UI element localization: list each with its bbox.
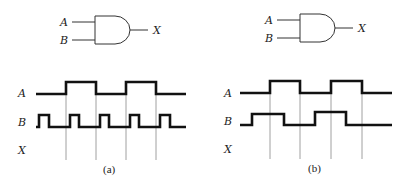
- gate-input-b-label: B: [59, 34, 68, 47]
- waveform-b-label: B: [17, 116, 26, 129]
- waveform-a-label: A: [17, 87, 26, 100]
- and-gate-timing-diagram: A B X A B X (a) A B X: [0, 0, 410, 180]
- waveform-b-signal-b: [240, 112, 392, 125]
- waveform-a-signal-a: [36, 82, 186, 94]
- gate-output-x-label: X: [152, 24, 162, 37]
- waveform-a-signal-b: [36, 115, 186, 127]
- waveform-b-label: B: [223, 115, 232, 128]
- and-gate-symbol-b: [300, 14, 335, 42]
- caption-b: (b): [308, 162, 321, 175]
- waveform-b-signal-a: [240, 81, 392, 93]
- gate-input-a-label: A: [59, 16, 68, 29]
- gate-output-x-label: X: [357, 22, 367, 35]
- and-gate-b: A B X: [264, 14, 367, 45]
- panel-a: A B X A B X (a): [17, 16, 186, 176]
- gate-input-b-label: B: [264, 32, 273, 45]
- caption-a: (a): [103, 163, 116, 176]
- and-gate-a: A B X: [59, 16, 162, 47]
- waveform-x-label: X: [223, 143, 233, 156]
- waveform-a-label: A: [223, 87, 232, 100]
- waveform-x-label: X: [17, 144, 27, 157]
- and-gate-symbol-a: [95, 16, 130, 44]
- panel-b: A B X A B X (b): [223, 14, 392, 175]
- gate-input-a-label: A: [264, 14, 273, 27]
